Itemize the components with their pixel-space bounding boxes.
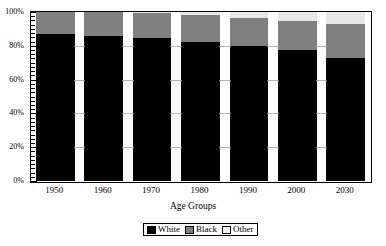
x-tick-label-1970: 1970 [127, 185, 175, 196]
legend-label: Black [196, 225, 217, 234]
gridline-dash [122, 147, 134, 148]
light-gray-swatch-icon [222, 226, 231, 234]
chart-legend: WhiteBlackOther [143, 223, 258, 236]
gridline-dash [267, 80, 279, 81]
gridline-dash [267, 113, 279, 114]
bar-segment-white-2000 [278, 50, 317, 181]
x-tick-label-1950: 1950 [30, 185, 78, 196]
x-tick-label-1990: 1990 [224, 185, 272, 196]
bar-group [133, 12, 172, 181]
bar-segment-black-1950 [36, 12, 75, 34]
bars-layer [31, 12, 370, 181]
y-major-tick [31, 181, 37, 182]
gridline-dash [74, 80, 86, 81]
y-tick-label-100: 100% [5, 8, 24, 16]
bar-segment-black-1970 [133, 13, 172, 38]
y-tick-label-20: 20% [9, 143, 24, 151]
gridline-dash [122, 80, 134, 81]
bar-segment-other-1980 [181, 12, 220, 15]
x-tick-label-2000: 2000 [272, 185, 320, 196]
bar-segment-black-2030 [326, 24, 365, 59]
bar-group [181, 12, 220, 181]
bar-segment-black-1960 [84, 12, 123, 36]
bar-segment-other-1990 [230, 12, 269, 18]
legend-label: Other [233, 225, 254, 234]
bar-segment-black-1980 [181, 15, 220, 43]
gridline-dash [170, 80, 182, 81]
x-tick-label-2030: 2030 [321, 185, 369, 196]
bar-group [326, 12, 365, 181]
bar-segment-other-2000 [278, 12, 317, 21]
bar-segment-white-1970 [133, 38, 172, 181]
bar-segment-white-1980 [181, 42, 220, 181]
bar-segment-black-2000 [278, 21, 317, 50]
gridline-dash [316, 147, 328, 148]
legend-label: White [158, 225, 180, 234]
y-tick-label-40: 40% [9, 109, 24, 117]
x-tick-label-1960: 1960 [78, 185, 126, 196]
gridline-dash [74, 113, 86, 114]
bar-group [278, 12, 317, 181]
bar-segment-other-2030 [326, 12, 365, 24]
gridline-dash [219, 46, 231, 47]
gridline-dash [170, 113, 182, 114]
gray-swatch-icon [185, 226, 194, 234]
gridline-dash [267, 46, 279, 47]
bar-segment-white-1960 [84, 36, 123, 181]
bar-segment-white-1950 [36, 34, 75, 181]
gridline-dash [74, 147, 86, 148]
gridline-dash [267, 147, 279, 148]
gridline-dash [122, 46, 134, 47]
bar-segment-white-1990 [230, 46, 269, 181]
black-swatch-icon [147, 226, 156, 234]
y-tick-label-60: 60% [9, 76, 24, 84]
stacked-bar-chart: 0%20%40%60%80%100% 195019601970198019902… [0, 0, 386, 246]
y-tick-label-80: 80% [9, 42, 24, 50]
gridline-dash [316, 46, 328, 47]
gridline-dash [122, 113, 134, 114]
gridline-dash [219, 113, 231, 114]
gridline-dash [74, 46, 86, 47]
gridline-dash [219, 147, 231, 148]
gridline-dash [219, 80, 231, 81]
gridline-dash [316, 113, 328, 114]
bar-group [84, 12, 123, 181]
legend-item-white[interactable]: White [147, 225, 180, 234]
legend-item-black[interactable]: Black [185, 225, 217, 234]
bar-segment-other-1970 [133, 12, 172, 13]
gridline-dash [170, 46, 182, 47]
x-tick-label-1980: 1980 [175, 185, 223, 196]
x-axis: 1950196019701980199020002030 [30, 185, 372, 199]
bar-segment-white-2030 [326, 58, 365, 181]
bar-segment-black-1990 [230, 18, 269, 46]
legend-item-other[interactable]: Other [222, 225, 254, 234]
x-axis-title: Age Groups [0, 200, 386, 212]
y-tick-label-0: 0% [13, 177, 24, 185]
bar-group [230, 12, 269, 181]
bar-group [36, 12, 75, 181]
gridline-dash [170, 147, 182, 148]
gridline-dash [316, 80, 328, 81]
